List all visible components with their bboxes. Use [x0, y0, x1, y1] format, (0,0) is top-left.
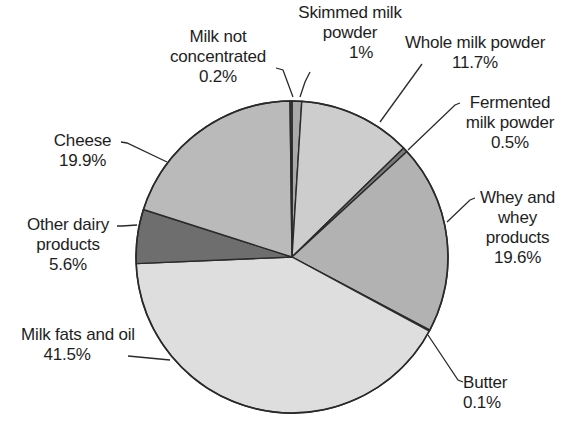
label-line: Milk not [163, 27, 273, 47]
label-skimmed-milk-powder: Skimmed milk powder 1% [290, 3, 410, 63]
label-whole-milk-powder: Whole milk powder 11.7% [395, 33, 555, 73]
leader-butter [428, 335, 463, 382]
label-line: milk powder [455, 113, 565, 133]
label-line: whey [470, 208, 565, 228]
label-value: 1% [290, 43, 410, 63]
label-milk-not-concentrated: Milk not concentrated 0.2% [163, 27, 273, 87]
label-line: Fermented [455, 93, 565, 113]
label-butter: Butter 0.1% [463, 373, 523, 413]
label-other-dairy-products: Other dairy products 5.6% [18, 215, 118, 275]
label-fermented-milk-powder: Fermented milk powder 0.5% [455, 93, 565, 153]
label-line: Butter [463, 373, 523, 393]
pie-slices [136, 101, 448, 413]
label-line: concentrated [163, 47, 273, 67]
label-value: 19.6% [470, 248, 565, 268]
leader-cheese [121, 142, 167, 162]
label-value: 41.5% [8, 345, 148, 365]
label-value: 11.7% [395, 53, 555, 73]
leader-fermented [408, 103, 460, 150]
leader-skimmed [300, 72, 310, 97]
leader-other [117, 225, 137, 226]
label-line: products [18, 235, 118, 255]
label-line: Milk fats and oil [8, 325, 148, 345]
label-whey: Whey and whey products 19.6% [470, 188, 565, 268]
label-value: 0.2% [163, 67, 273, 87]
label-line: powder [290, 23, 410, 43]
label-value: 0.1% [463, 393, 523, 413]
label-milk-fats-and-oil: Milk fats and oil 41.5% [8, 325, 148, 365]
label-value: 0.5% [455, 133, 565, 153]
label-cheese: Cheese 19.9% [45, 131, 120, 171]
label-line: Cheese [45, 131, 120, 151]
leader-notconc [276, 68, 293, 97]
label-line: Other dairy [18, 215, 118, 235]
label-line: Whole milk powder [395, 33, 555, 53]
label-line: Whey and [470, 188, 565, 208]
label-value: 19.9% [45, 151, 120, 171]
label-value: 5.6% [18, 255, 118, 275]
label-line: Skimmed milk [290, 3, 410, 23]
label-line: products [470, 228, 565, 248]
